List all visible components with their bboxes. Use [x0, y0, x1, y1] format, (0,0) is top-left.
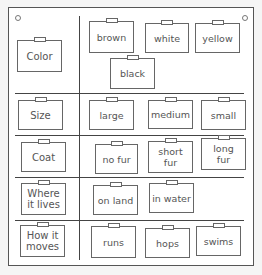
row-divider-3: [15, 177, 244, 178]
card-label: Color: [26, 51, 52, 62]
card-label: hops: [156, 238, 179, 249]
category-card-coat[interactable]: Coat: [21, 142, 66, 172]
clip-icon: [111, 141, 123, 146]
clip-icon: [127, 55, 139, 60]
column-divider: [79, 16, 80, 260]
clip-icon: [218, 97, 230, 102]
clip-icon: [165, 97, 177, 102]
clip-icon: [165, 138, 177, 143]
value-card-yellow[interactable]: yellow: [195, 23, 240, 53]
card-label-line-1: long: [213, 143, 234, 154]
value-card-white[interactable]: white: [145, 23, 189, 53]
clip-icon: [106, 18, 118, 23]
card-label: Size: [30, 110, 51, 121]
value-card-no-fur[interactable]: no fur: [95, 144, 138, 174]
card-label: yellow: [202, 33, 232, 44]
clip-icon: [161, 20, 173, 25]
card-label-line-1: Where: [27, 188, 59, 199]
card-label: on land: [98, 195, 133, 206]
clip-icon: [34, 37, 46, 42]
card-label: white: [154, 33, 180, 44]
card-label-line-1: How it: [27, 230, 59, 241]
value-card-swims[interactable]: swims: [196, 226, 241, 256]
clip-icon: [213, 223, 225, 228]
sorting-board: Color brown white yellow black Size larg…: [8, 7, 254, 266]
card-label: brown: [97, 32, 126, 43]
row-divider-1: [15, 93, 244, 94]
clip-icon: [108, 223, 120, 228]
value-card-black[interactable]: black: [110, 58, 155, 89]
pin-hole-left: [15, 15, 21, 21]
category-card-where-it-lives[interactable]: Where it lives: [21, 183, 66, 215]
card-label: runs: [103, 237, 124, 248]
value-card-in-water[interactable]: in water: [149, 183, 194, 213]
card-label: in water: [152, 193, 191, 204]
card-label-line-2: moves: [26, 241, 59, 252]
card-label: no fur: [102, 154, 130, 165]
card-label: swims: [204, 236, 234, 247]
row-divider-2: [15, 135, 244, 136]
card-label: large: [99, 110, 123, 121]
clip-icon: [38, 180, 50, 185]
value-card-large[interactable]: large: [89, 100, 134, 130]
row-divider-4: [15, 220, 244, 221]
value-card-hops[interactable]: hops: [145, 228, 190, 258]
value-card-on-land[interactable]: on land: [93, 185, 138, 215]
category-card-size[interactable]: Size: [18, 100, 63, 130]
card-label: small: [211, 110, 236, 121]
card-label-line-2: fur: [164, 157, 177, 168]
clip-icon: [110, 182, 122, 187]
pin-hole-right: [242, 15, 248, 21]
card-label-line-1: short: [158, 146, 182, 157]
clip-icon: [166, 180, 178, 185]
value-card-small[interactable]: small: [201, 100, 246, 130]
clip-icon: [38, 139, 50, 144]
clip-icon: [106, 97, 118, 102]
category-card-how-it-moves[interactable]: How it moves: [20, 225, 65, 257]
clip-icon: [218, 135, 230, 140]
clip-icon: [35, 97, 47, 102]
card-label: black: [120, 68, 145, 79]
clip-icon: [37, 222, 49, 227]
category-card-color[interactable]: Color: [17, 40, 62, 72]
clip-icon: [212, 20, 224, 25]
card-label-line-2: it lives: [27, 199, 60, 210]
value-card-short-fur[interactable]: short fur: [148, 141, 193, 173]
card-label: medium: [151, 109, 190, 120]
value-card-long-fur[interactable]: long fur: [201, 138, 246, 170]
clip-icon: [162, 225, 174, 230]
value-card-runs[interactable]: runs: [91, 226, 136, 258]
card-label-line-2: fur: [217, 154, 230, 165]
card-label: Coat: [32, 152, 55, 163]
value-card-brown[interactable]: brown: [89, 21, 134, 53]
value-card-medium[interactable]: medium: [148, 100, 193, 129]
